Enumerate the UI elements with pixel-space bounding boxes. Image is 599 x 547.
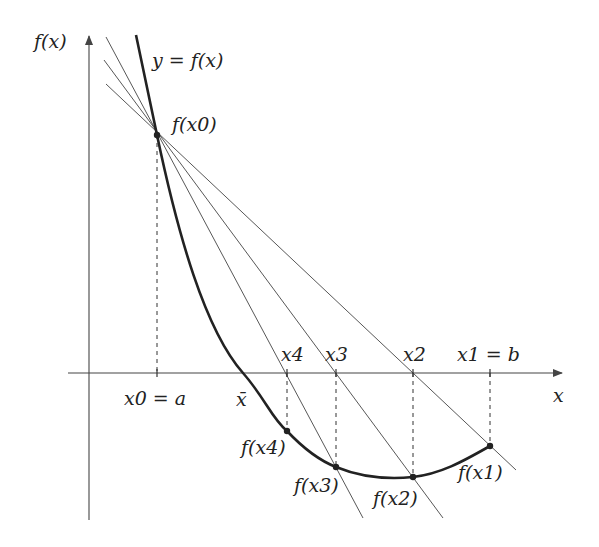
point-f-x1 [487, 443, 493, 449]
regula-falsi-diagram: f(x) x y = f(x) f(x0) x0 = a x̄ x4 x3 x2… [0, 0, 599, 547]
dashed-guides [157, 135, 490, 477]
label-x0-a: x0 = a [124, 387, 186, 409]
point-f-x4 [284, 428, 290, 434]
label-x2: x2 [403, 343, 426, 365]
label-x4: x4 [281, 343, 304, 365]
label-x1-b: x1 = b [457, 343, 520, 365]
label-x-bar: x̄ [236, 388, 247, 410]
secant-x0-x1 [106, 84, 516, 470]
y-axis-label: f(x) [32, 30, 67, 52]
point-f-x0 [154, 132, 160, 138]
point-f-x2 [410, 474, 416, 480]
label-f-x3: f(x3) [292, 474, 339, 496]
secant-x0-x3 [106, 37, 363, 518]
point-f-x3 [333, 464, 339, 470]
label-f-x2: f(x2) [371, 487, 418, 509]
curve-label: y = f(x) [151, 49, 223, 71]
label-x3: x3 [325, 343, 348, 365]
function-curve [136, 35, 490, 478]
label-f-x1: f(x1) [456, 461, 503, 483]
label-f-x4: f(x4) [239, 436, 286, 458]
label-f-x0: f(x0) [170, 113, 217, 135]
secant-lines [104, 37, 516, 518]
x-axis-label: x [553, 384, 564, 406]
